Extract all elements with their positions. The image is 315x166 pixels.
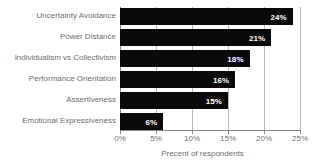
- x-tick-label-25: 25%: [280, 135, 315, 143]
- bar-assertiveness[interactable]: 15%: [120, 92, 228, 109]
- bar-row: 15%: [120, 92, 300, 109]
- category-label-uncertainty-avoidance: Uncertainty Avoidance: [0, 12, 116, 20]
- bar-value-label: 15%: [206, 96, 222, 105]
- bar-performance-orientation[interactable]: 16%: [120, 71, 235, 88]
- bar-row: 21%: [120, 29, 300, 46]
- x-axis-title-wrap: Precent of respondents: [0, 150, 315, 158]
- bar-value-label: 24%: [270, 12, 286, 21]
- x-tick-label-10: 10%: [172, 135, 212, 143]
- category-label-performance-orientation: Performance Orientation: [0, 75, 116, 83]
- category-label-individualism-vs-collectivism: Individualism vs Collectivism: [0, 54, 116, 62]
- bar-row: 16%: [120, 71, 300, 88]
- bar-row: 18%: [120, 50, 300, 67]
- category-label-assertiveness: Assertiveness: [0, 96, 116, 104]
- bar-row: 24%: [120, 8, 300, 25]
- category-label-power-distance: Power Distance: [0, 33, 116, 41]
- x-tick-label-5: 5%: [136, 135, 176, 143]
- bar-uncertainty-avoidance[interactable]: 24%: [120, 8, 293, 25]
- x-tick-label-20: 20%: [244, 135, 284, 143]
- x-axis-line: [120, 130, 301, 131]
- bar-row: 6%: [120, 113, 300, 130]
- category-label-emotional-expressiveness: Emotional Expressiveness: [0, 117, 116, 125]
- bar-chart: 24% 21% 18% 16% 15% 6%: [0, 0, 315, 166]
- x-axis-title: Precent of respondents: [71, 150, 244, 158]
- bar-value-label: 18%: [227, 54, 243, 63]
- x-tick-label-0: 0%: [100, 135, 140, 143]
- x-tick-label-15: 15%: [208, 135, 248, 143]
- bar-value-label: 16%: [213, 75, 229, 84]
- bars-layer: 24% 21% 18% 16% 15% 6%: [120, 7, 300, 130]
- gridline-5: [300, 7, 301, 130]
- bar-emotional-expressiveness[interactable]: 6%: [120, 113, 163, 130]
- bar-power-distance[interactable]: 21%: [120, 29, 271, 46]
- bar-value-label: 6%: [145, 117, 157, 126]
- bar-individualism-vs-collectivism[interactable]: 18%: [120, 50, 250, 67]
- y-axis-category-labels: Uncertainty Avoidance Power Distance Ind…: [0, 7, 116, 130]
- bar-value-label: 21%: [249, 33, 265, 42]
